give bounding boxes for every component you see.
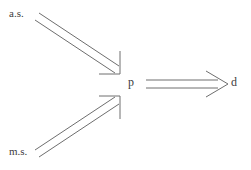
node-label-ms: m.s.: [9, 146, 27, 157]
node-label-as: a.s.: [9, 8, 24, 19]
edge-ms-to-p-shaft-upper: [35, 97, 115, 150]
node-label-d: d: [231, 76, 237, 88]
edge-ms-to-p: [35, 96, 120, 157]
edge-ms-to-p-shaft-lower: [39, 104, 119, 157]
diagram-arrows-layer: [0, 0, 251, 170]
edge-p-to-d: [146, 71, 228, 97]
node-label-p: p: [128, 76, 134, 88]
edge-as-to-p: [35, 13, 120, 74]
diagram-canvas: a.s. m.s. p d: [0, 0, 251, 170]
edge-p-to-d-arrowhead: [206, 71, 228, 97]
edge-as-to-p-shaft-lower: [35, 20, 115, 73]
edge-as-to-p-shaft-upper: [39, 13, 119, 66]
